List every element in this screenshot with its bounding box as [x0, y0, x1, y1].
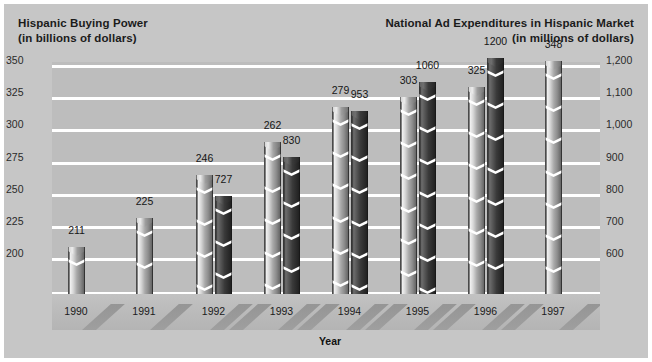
bar-value-label: 1060 — [405, 60, 450, 71]
bar-edge-right — [231, 196, 232, 294]
bar-body — [264, 142, 281, 294]
bar-light — [136, 218, 153, 294]
bar-value-label: 303 — [386, 75, 431, 86]
right-axis-tick: 700 — [606, 216, 650, 227]
left-axis-tick: 225 — [6, 216, 46, 227]
right-axis-tick: 900 — [606, 152, 650, 163]
bar-value-label: 953 — [337, 89, 382, 100]
bar-body — [351, 111, 368, 294]
bars-container — [52, 62, 600, 294]
bar-light — [264, 142, 281, 294]
bar-value-label: 727 — [201, 174, 246, 185]
bar-value-label: 211 — [54, 225, 99, 236]
bar-edge-left — [68, 247, 69, 294]
left-axis-title: Hispanic Buying Power (in billions of do… — [18, 16, 148, 45]
left-axis-tick: 325 — [6, 87, 46, 98]
bar-value-label: 225 — [122, 196, 167, 207]
bar-edge-left — [283, 157, 284, 294]
bar-edge-right — [416, 97, 417, 294]
bar-edge-left — [487, 58, 488, 294]
bar-body — [487, 58, 504, 294]
bar-value-label: 1200 — [473, 36, 518, 47]
chart-page: Hispanic Buying Power (in billions of do… — [0, 0, 652, 362]
right-axis-tick: 1,100 — [606, 87, 650, 98]
x-axis-tick: 1996 — [456, 306, 516, 317]
bar-body — [545, 61, 562, 294]
x-axis-title: Year — [4, 335, 652, 347]
x-axis-tick: 1994 — [320, 306, 380, 317]
right-axis-tick: 1,200 — [606, 55, 650, 66]
chart-frame: Hispanic Buying Power (in billions of do… — [4, 4, 648, 358]
bar-value-label: 830 — [269, 135, 314, 146]
bar-edge-right — [212, 175, 213, 294]
bar-body — [419, 82, 436, 294]
bar-light — [196, 175, 213, 294]
bar-edge-right — [299, 157, 300, 294]
x-axis-tick: 1991 — [114, 306, 174, 317]
bar-edge-left — [332, 107, 333, 294]
x-axis-tick: 1992 — [184, 306, 244, 317]
bar-body — [400, 97, 417, 294]
bar-body — [136, 218, 153, 294]
bar-edge-right — [367, 111, 368, 294]
right-axis-tick: 1,000 — [606, 119, 650, 130]
bar-dark — [351, 111, 368, 294]
bar-edge-right — [503, 58, 504, 294]
bar-value-label: 348 — [531, 39, 576, 50]
bar-edge-left — [215, 196, 216, 294]
x-axis-tick: 1997 — [523, 306, 583, 317]
bar-edge-left — [468, 87, 469, 294]
left-axis-title-line1: Hispanic Buying Power — [18, 16, 148, 31]
bar-light — [332, 107, 349, 294]
bar-edge-left — [351, 111, 352, 294]
bar-edge-right — [435, 82, 436, 294]
right-axis-tick: 800 — [606, 184, 650, 195]
bar-dark — [487, 58, 504, 294]
bar-edge-left — [196, 175, 197, 294]
bar-edge-right — [84, 247, 85, 294]
left-axis-tick: 300 — [6, 119, 46, 130]
bar-edge-left — [264, 142, 265, 294]
left-axis-tick: 200 — [6, 248, 46, 259]
x-axis-tick: 1990 — [46, 306, 106, 317]
bar-dark — [215, 196, 232, 294]
bar-dark — [283, 157, 300, 294]
bar-edge-left — [136, 218, 137, 294]
bar-edge-right — [152, 218, 153, 294]
x-axis-tick: 1995 — [388, 306, 448, 317]
bar-edge-left — [419, 82, 420, 294]
left-axis-title-line2: (in billions of dollars) — [18, 31, 148, 46]
bar-body — [283, 157, 300, 294]
left-axis-tick: 275 — [6, 152, 46, 163]
x-axis-tick: 1993 — [252, 306, 312, 317]
left-axis-tick: 250 — [6, 184, 46, 195]
right-axis-tick: 600 — [606, 248, 650, 259]
bar-body — [332, 107, 349, 294]
left-axis-tick: 350 — [6, 55, 46, 66]
bar-value-label: 246 — [182, 153, 227, 164]
bar-dark — [419, 82, 436, 294]
bar-light — [68, 247, 85, 294]
bar-light — [545, 61, 562, 294]
bar-value-label: 325 — [454, 65, 499, 76]
bar-value-label: 262 — [250, 120, 295, 131]
bar-light — [468, 87, 485, 294]
bar-edge-left — [400, 97, 401, 294]
bar-edge-right — [561, 61, 562, 294]
bar-edge-right — [280, 142, 281, 294]
bar-edge-right — [348, 107, 349, 294]
bar-edge-left — [545, 61, 546, 294]
bar-light — [400, 97, 417, 294]
right-axis-title-line1: National Ad Expenditures in Hispanic Mar… — [385, 16, 634, 31]
bar-edge-right — [484, 87, 485, 294]
